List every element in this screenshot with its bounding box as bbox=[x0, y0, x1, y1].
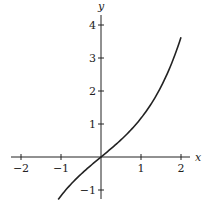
curve-line bbox=[58, 37, 181, 199]
axes bbox=[11, 15, 190, 199]
y-axis-label: y bbox=[97, 0, 105, 13]
x-tick-label: −1 bbox=[53, 162, 69, 175]
x-tick-label: 2 bbox=[178, 162, 185, 175]
y-tick-label: 4 bbox=[89, 19, 96, 32]
x-axis-label: x bbox=[195, 151, 202, 164]
labels: −2−112−11234xy bbox=[13, 0, 202, 197]
y-tick-label: 1 bbox=[89, 118, 96, 131]
x-tick-label: −2 bbox=[13, 162, 29, 175]
y-tick-label: −1 bbox=[80, 184, 96, 197]
plot: −2−112−11234xy bbox=[0, 0, 209, 209]
y-tick-label: 3 bbox=[89, 52, 96, 65]
y-tick-label: 2 bbox=[89, 85, 96, 98]
x-tick-label: 1 bbox=[138, 162, 145, 175]
